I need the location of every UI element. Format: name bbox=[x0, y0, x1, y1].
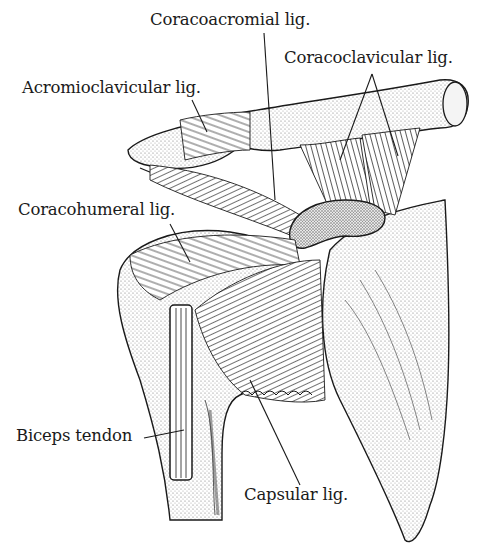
label-coracoclavicular-ligament: Coracoclavicular lig. bbox=[284, 50, 453, 67]
coracoclavicular-ligament-trapezoid bbox=[300, 138, 370, 210]
label-coracoacromial-ligament: Coracoacromial lig. bbox=[150, 12, 310, 29]
label-coracohumeral-ligament: Coracohumeral lig. bbox=[18, 202, 175, 219]
label-acromioclavicular-ligament: Acromioclavicular lig. bbox=[22, 80, 201, 97]
acromioclavicular-ligament bbox=[180, 112, 250, 160]
label-biceps-tendon: Biceps tendon bbox=[16, 428, 132, 445]
biceps-tendon bbox=[170, 305, 192, 480]
coracoclavicular-ligament-conoid bbox=[362, 128, 420, 215]
shoulder-ligament-diagram: Coracoacromial lig. Coracoclavicular lig… bbox=[0, 0, 484, 553]
label-capsular-ligament: Capsular lig. bbox=[244, 487, 348, 504]
